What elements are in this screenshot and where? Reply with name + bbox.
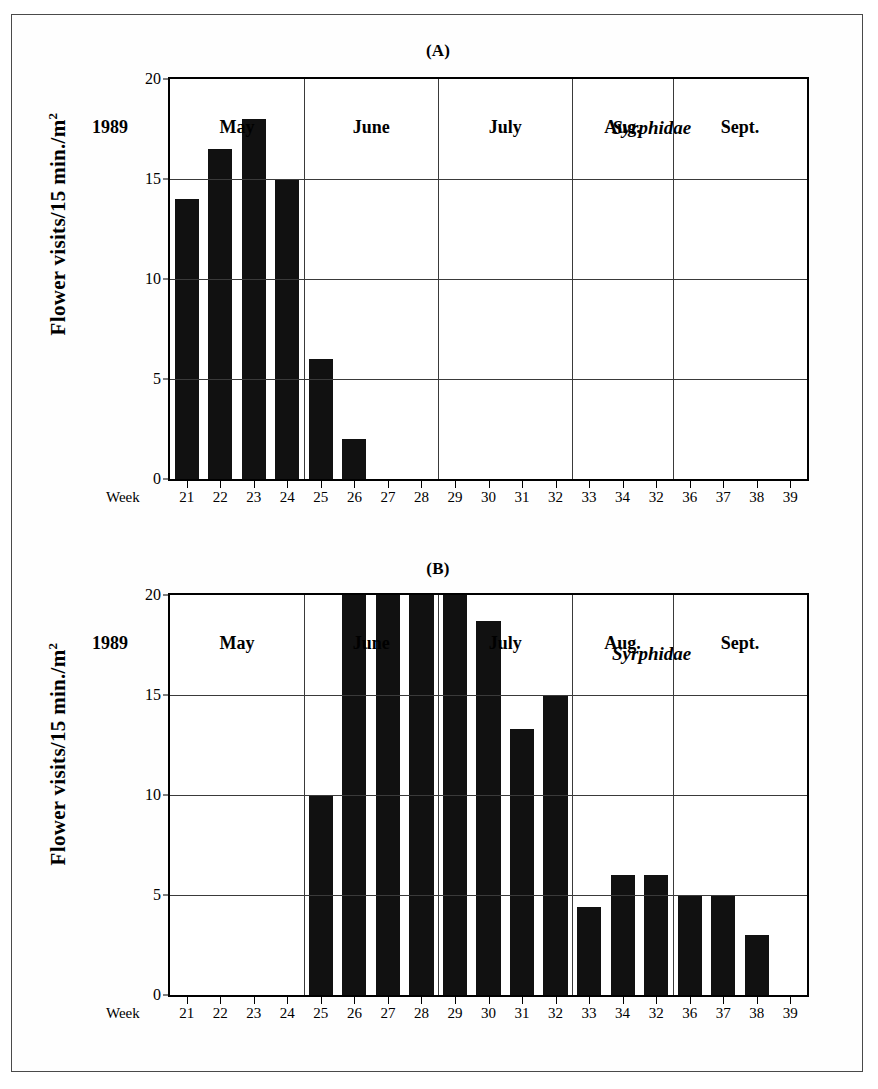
x-axis-tick-mark [220,995,221,1004]
bar [275,179,299,479]
x-axis-tick-mark [656,479,657,488]
panel-b-x-axis-ticks: Week 21222324252627282930313233343236373… [170,995,807,1004]
chart-panel-a: (A) Flower visits/15 min./m2 Week 212223… [12,15,864,535]
x-axis-month-label: May [220,633,255,654]
gridline-vertical [304,595,305,995]
x-axis-tick-mark [589,995,590,1004]
y-axis-tick-label: 20 [145,70,161,88]
panel-a-year-label: 1989 [92,117,128,138]
y-axis-tick-label: 5 [153,370,161,388]
gridline-vertical [572,595,573,995]
x-axis-tick-mark [723,479,724,488]
x-axis-month-label: June [353,117,390,138]
x-axis-week-label: 34 [615,1005,630,1022]
x-axis-week-label: 31 [515,1005,530,1022]
gridline-vertical [438,79,439,479]
x-axis-tick-mark [589,479,590,488]
x-axis-tick-mark [522,479,523,488]
x-axis-tick-mark [656,995,657,1004]
bar [208,149,232,479]
panel-a-series-annotation: Syrphidae [612,117,691,139]
x-axis-tick-mark [287,995,288,1004]
gridline-horizontal [170,895,807,896]
x-axis-month-label: Sept. [721,117,760,138]
y-axis-tick-mark [163,279,170,280]
panel-a-week-word: Week [106,489,140,506]
x-axis-tick-mark [757,995,758,1004]
x-axis-week-label: 32 [649,1005,664,1022]
x-axis-week-label: 30 [481,489,496,506]
x-axis-week-label: 26 [347,1005,362,1022]
x-axis-month-label: June [353,633,390,654]
x-axis-week-label: 25 [313,489,328,506]
panel-b-y-axis-title-text: Flower visits/15 min./m [46,649,70,865]
panel-b-plot-area: Week 21222324252627282930313233343236373… [168,593,809,997]
y-axis-tick-mark [163,479,170,480]
x-axis-week-label: 39 [783,1005,798,1022]
x-axis-tick-mark [556,995,557,1004]
x-axis-tick-mark [421,479,422,488]
x-axis-tick-mark [321,479,322,488]
gridline-vertical [438,595,439,995]
x-axis-tick-mark [723,995,724,1004]
bar [711,895,735,995]
x-axis-week-label: 24 [280,1005,295,1022]
x-axis-week-label: 34 [615,489,630,506]
x-axis-week-label: 36 [682,489,697,506]
gridline-horizontal [170,795,807,796]
x-axis-week-label: 22 [213,489,228,506]
x-axis-week-label: 29 [447,1005,462,1022]
panel-a-y-axis-title-text: Flower visits/15 min./m [46,119,70,335]
x-axis-week-label: 21 [179,1005,194,1022]
panel-a-x-axis-ticks: Week 21222324252627282930313233343236373… [170,479,807,488]
bar [510,729,534,995]
x-axis-tick-mark [254,995,255,1004]
panel-a-y-axis-title: Flower visits/15 min./m2 [45,74,71,374]
chart-panel-b: (B) Flower visits/15 min./m2 Week 212223… [12,535,864,1073]
panel-b-series-annotation: Syrphidae [612,643,691,665]
bar [309,359,333,479]
panel-b-year-label: 1989 [92,633,128,654]
x-axis-week-label: 39 [783,489,798,506]
panel-a-month-row: 1989 MayJuneJulyAug.Sept. [170,117,807,143]
x-axis-month-label: July [489,633,522,654]
panel-b-week-word: Week [106,1005,140,1022]
x-axis-week-label: 31 [515,489,530,506]
x-axis-tick-mark [556,479,557,488]
y-axis-tick-label: 15 [145,170,161,188]
x-axis-tick-mark [790,995,791,1004]
panel-a-y-axis-title-exponent: 2 [45,113,60,120]
x-axis-week-label: 21 [179,489,194,506]
x-axis-tick-mark [354,479,355,488]
x-axis-month-label: July [489,117,522,138]
x-axis-tick-mark [455,995,456,1004]
x-axis-tick-mark [455,479,456,488]
bar [745,935,769,995]
x-axis-tick-mark [790,479,791,488]
x-axis-tick-mark [388,995,389,1004]
panel-b-label: (B) [12,559,864,579]
y-axis-tick-mark [163,79,170,80]
x-axis-week-label: 38 [749,1005,764,1022]
panel-a-plot-area: Week 21222324252627282930313233343236373… [168,77,809,481]
x-axis-week-label: 30 [481,1005,496,1022]
panel-b-month-row: 1989 MayJuneJulyAug.Sept. [170,633,807,659]
x-axis-tick-mark [757,479,758,488]
x-axis-tick-mark [690,995,691,1004]
x-axis-tick-mark [522,995,523,1004]
bar [678,895,702,995]
x-axis-week-label: 32 [548,1005,563,1022]
x-axis-tick-mark [623,995,624,1004]
figure-frame: (A) Flower visits/15 min./m2 Week 212223… [11,14,863,1072]
y-axis-tick-mark [163,179,170,180]
x-axis-tick-mark [489,995,490,1004]
y-axis-tick-mark [163,995,170,996]
gridline-horizontal [170,379,807,380]
x-axis-month-label: May [220,117,255,138]
panel-b-y-axis-title-exponent: 2 [45,643,60,650]
x-axis-tick-mark [388,479,389,488]
x-axis-week-label: 28 [414,489,429,506]
bar [175,199,199,479]
y-axis-tick-mark [163,595,170,596]
gridline-horizontal [170,279,807,280]
